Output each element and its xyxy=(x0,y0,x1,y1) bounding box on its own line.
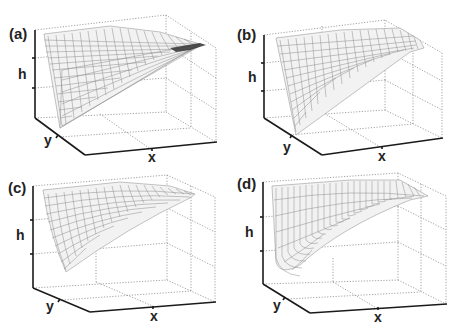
panel-b-zlabel: h xyxy=(248,69,257,85)
panel-b: (b) h y x xyxy=(237,20,443,164)
panel-c-ylabel: y xyxy=(46,298,54,314)
panel-d-label: (d) xyxy=(237,175,256,192)
panel-d-zlabel: h xyxy=(245,224,254,240)
panel-c-zlabel: h xyxy=(16,227,25,243)
panel-b-xlabel: x xyxy=(378,148,386,164)
panel-c: (c) h y x xyxy=(8,175,216,324)
panel-b-label: (b) xyxy=(237,26,256,43)
panel-d: (d) h y x xyxy=(237,173,447,325)
panel-a-xlabel: x xyxy=(148,149,156,165)
panel-c-label: (c) xyxy=(8,179,26,196)
panel-c-xlabel: x xyxy=(150,308,158,324)
panel-a-ylabel: y xyxy=(44,132,52,148)
panel-c-surface xyxy=(43,182,195,272)
panel-d-ylabel: y xyxy=(273,297,281,313)
panel-a-zlabel: h xyxy=(18,66,27,82)
figure: (a) h y x xyxy=(0,0,458,334)
panel-b-ylabel: y xyxy=(283,139,291,155)
panel-a-surface xyxy=(44,26,206,128)
panel-d-xlabel: x xyxy=(374,309,382,325)
panel-b-surface xyxy=(276,28,424,135)
panel-a: (a) h y x xyxy=(9,15,217,165)
panel-a-label: (a) xyxy=(9,25,27,42)
panel-d-surface xyxy=(272,180,428,276)
